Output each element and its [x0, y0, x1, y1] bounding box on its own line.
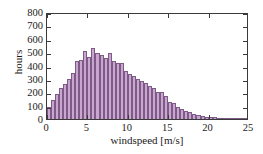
- x-tick-label: 20: [193, 122, 223, 133]
- y-tick-mark: [243, 14, 247, 15]
- x-tick-mark: [47, 115, 48, 119]
- y-tick-mark: [47, 54, 51, 55]
- x-tick-label: 0: [31, 122, 61, 133]
- x-tick-mark: [209, 14, 210, 18]
- x-tick-mark: [87, 14, 88, 18]
- y-tick-mark: [243, 81, 247, 82]
- x-tick-mark: [87, 115, 88, 119]
- y-tick-mark: [243, 68, 247, 69]
- y-tick-mark: [243, 41, 247, 42]
- x-tick-mark: [128, 14, 129, 18]
- x-tick-mark: [47, 14, 48, 18]
- y-tick-label: 700: [3, 21, 43, 31]
- windspeed-histogram-figure: 0100200300400500600700800 hours 05101520…: [0, 0, 263, 154]
- x-tick-mark: [128, 115, 129, 119]
- x-tick-mark: [168, 14, 169, 18]
- x-tick-mark: [209, 115, 210, 119]
- y-tick-mark: [243, 54, 247, 55]
- histogram-bars: [47, 14, 247, 119]
- y-tick-mark: [47, 27, 51, 28]
- y-axis-title: hours: [12, 32, 24, 92]
- y-tick-mark: [243, 94, 247, 95]
- plot-area: [46, 13, 248, 120]
- y-tick-mark: [243, 108, 247, 109]
- y-tick-mark: [243, 27, 247, 28]
- x-tick-label: 5: [71, 122, 101, 133]
- x-tick-label: 15: [152, 122, 182, 133]
- x-tick-label: 10: [112, 122, 142, 133]
- x-tick-label: 25: [233, 122, 263, 133]
- y-tick-mark: [47, 81, 51, 82]
- y-tick-mark: [47, 68, 51, 69]
- x-axis-title: windspeed [m/s]: [46, 134, 248, 146]
- y-tick-mark: [47, 108, 51, 109]
- histogram-bar: [245, 118, 248, 119]
- y-tick-label: 100: [3, 102, 43, 112]
- y-tick-mark: [47, 41, 51, 42]
- x-tick-mark: [168, 115, 169, 119]
- y-tick-mark: [47, 94, 51, 95]
- y-tick-label: 800: [3, 8, 43, 18]
